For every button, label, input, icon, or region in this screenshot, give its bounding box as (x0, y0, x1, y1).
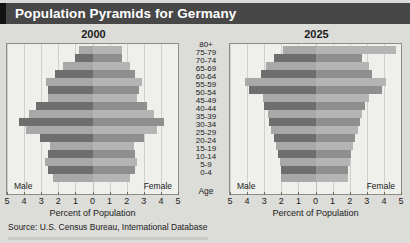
female-bar (93, 102, 148, 110)
female-bar (316, 174, 348, 182)
female-bar (316, 118, 360, 126)
x-tick-label: 1 (107, 196, 112, 206)
x-tick-label: 3 (262, 196, 267, 206)
male-bar (271, 126, 315, 134)
plot-area-2025: Male Female (229, 43, 402, 195)
x-tick-label: 4 (381, 196, 386, 206)
x-axis-2000: 54321012345 (6, 196, 179, 208)
male-bar (36, 102, 92, 110)
male-bar (280, 158, 316, 166)
female-bar (316, 62, 369, 70)
male-bar (29, 110, 92, 118)
pyramid-row (230, 126, 401, 134)
x-tick-label: 4 (22, 196, 27, 206)
x-tick-label: 3 (39, 196, 44, 206)
bar-rows-2025 (230, 46, 401, 182)
female-bar (93, 126, 158, 134)
x-tick-label: 5 (175, 196, 180, 206)
male-bar (281, 174, 315, 182)
pyramid-row (230, 166, 401, 174)
male-bar (283, 46, 315, 54)
x-tick-label: 3 (364, 196, 369, 206)
x-tick-mark (75, 192, 76, 195)
x-tick-mark (281, 192, 282, 195)
x-tick-label: 4 (245, 196, 250, 206)
chart-title-2000: 2000 (6, 28, 181, 40)
pyramid-row (7, 102, 178, 110)
x-tick-label: 0 (313, 196, 318, 206)
x-tick-label: 5 (398, 196, 403, 206)
pyramid-row (7, 70, 178, 78)
x-tick-mark (178, 192, 179, 195)
female-bar (316, 86, 383, 94)
pyramid-row (7, 110, 178, 118)
x-tick-mark (127, 192, 128, 195)
pyramid-row (230, 86, 401, 94)
male-bar (19, 118, 93, 126)
female-bar (93, 54, 122, 62)
chart-title-2025: 2025 (229, 28, 404, 40)
pyramid-row (230, 46, 401, 54)
male-bar (268, 110, 316, 118)
female-bar (93, 94, 137, 102)
male-bar (26, 126, 93, 134)
female-bar (93, 70, 136, 78)
male-bar (48, 94, 92, 102)
x-tick-mark (144, 192, 145, 195)
female-bar (93, 46, 122, 54)
female-bar (316, 102, 366, 110)
x-tick-mark (247, 192, 248, 195)
pyramid-row (7, 150, 178, 158)
female-bar (316, 54, 362, 62)
male-side-label-2025: Male (237, 181, 255, 191)
male-bar (269, 118, 315, 126)
male-bar (278, 150, 316, 158)
x-tick-mark (161, 192, 162, 195)
pyramid-row (7, 126, 178, 134)
female-bar (316, 166, 348, 174)
plot-area-2000: Male Female (6, 43, 179, 195)
x-tick-mark (93, 192, 94, 195)
age-axis-title: Age (183, 187, 229, 196)
female-bar (93, 110, 155, 118)
female-bar (316, 142, 354, 150)
pyramid-row (7, 78, 178, 86)
male-bar (245, 78, 315, 86)
male-bar (264, 102, 315, 110)
pyramid-row (230, 150, 401, 158)
x-tick-mark (350, 192, 351, 195)
x-tick-mark (401, 192, 402, 195)
pyramid-row (7, 166, 178, 174)
male-bar (249, 86, 316, 94)
x-tick-label: 1 (73, 196, 78, 206)
pyramid-row (7, 46, 178, 54)
male-bar (55, 70, 93, 78)
female-bar (93, 166, 136, 174)
x-tick-mark (7, 192, 8, 195)
x-tick-label: 2 (56, 196, 61, 206)
pyramid-row (7, 142, 178, 150)
x-tick-mark (264, 192, 265, 195)
x-tick-mark (230, 192, 231, 195)
x-tick-label: 0 (90, 196, 95, 206)
x-tick-mark (333, 192, 334, 195)
pyramid-row (7, 54, 178, 62)
x-tick-mark (316, 192, 317, 195)
male-bar (45, 158, 93, 166)
male-bar (274, 54, 315, 62)
gridline (401, 44, 402, 194)
male-side-label-2000: Male (14, 181, 32, 191)
male-bar (281, 166, 315, 174)
x-tick-label: 1 (296, 196, 301, 206)
pyramid-row (230, 54, 401, 62)
pyramid-row (230, 102, 401, 110)
female-side-label-2025: Female (367, 181, 395, 191)
x-tick-label: 2 (347, 196, 352, 206)
x-tick-mark (24, 192, 25, 195)
female-bar (316, 158, 350, 166)
age-group-label: 0-4 (183, 169, 229, 177)
pyramid-row (230, 118, 401, 126)
x-axis-2025: 54321012345 (229, 196, 402, 208)
female-bar (93, 150, 136, 158)
male-bar (274, 134, 315, 142)
